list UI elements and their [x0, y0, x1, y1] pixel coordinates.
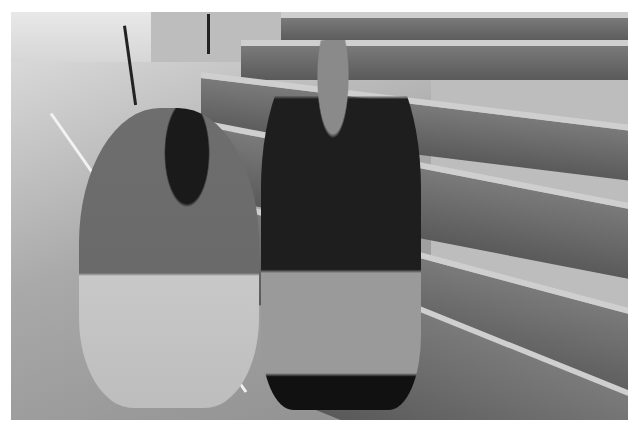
- athlete-figure: [261, 40, 421, 410]
- photograph: [11, 12, 628, 420]
- trainer-figure: [79, 108, 259, 408]
- bleacher-row: [281, 12, 628, 42]
- bleacher-railing: [207, 14, 210, 54]
